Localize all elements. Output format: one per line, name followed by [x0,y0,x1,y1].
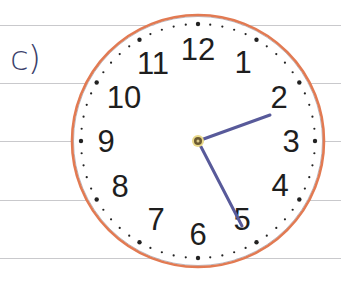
minute-marker-dot [221,254,223,256]
hour-marker-dot [94,197,98,201]
minute-marker-dot [313,152,315,154]
numeral-6: 6 [189,217,206,252]
hour-marker-dot [196,22,200,26]
clock-face: 12 1 2 3 4 5 6 7 8 9 10 11 [0,0,341,284]
minute-marker-dot [128,45,130,47]
minute-marker-dot [233,251,235,253]
numeral-7: 7 [147,202,164,237]
minute-marker-dot [292,209,294,211]
hour-marker-dot [254,37,258,41]
minute-marker-dot [304,187,306,189]
numeral-5: 5 [233,202,250,237]
minute-marker-dot [221,25,223,27]
minute-marker-dot [86,104,88,106]
minute-marker-dot [173,25,175,27]
minute-marker-dot [90,187,92,189]
minute-marker-dot [313,128,315,130]
minute-marker-dot [275,227,277,229]
hour-marker-dot [137,37,141,41]
numeral-3: 3 [282,124,299,159]
minute-marker-dot [308,176,310,178]
numeral-4: 4 [271,168,288,203]
hour-marker-dot [79,139,83,143]
minute-marker-dot [102,71,104,73]
numeral-2: 2 [270,80,287,115]
minute-marker-dot [81,128,83,130]
minute-marker-dot [292,71,294,73]
numeral-10: 10 [107,80,141,115]
minute-marker-dot [102,209,104,211]
minute-marker-dot [308,104,310,106]
minute-marker-dot [110,62,112,64]
hour-marker-dot [313,139,317,143]
numeral-8: 8 [111,169,128,204]
hour-marker-dot [297,80,301,84]
hour-marker-dot [297,197,301,201]
minute-marker-dot [266,45,268,47]
minute-marker-dot [244,247,246,249]
minute-marker-dot [266,235,268,237]
minute-marker-dot [173,254,175,256]
minute-marker-dot [161,29,163,31]
minute-marker-dot [304,92,306,94]
minute-marker-dot [311,116,313,118]
minute-marker-dot [90,92,92,94]
minute-marker-dot [185,24,187,26]
minute-marker-dot [86,176,88,178]
hour-marker-dot [196,256,200,260]
minute-marker-dot [128,235,130,237]
minute-marker-dot [161,251,163,253]
numeral-12: 12 [181,32,215,67]
hour-marker-dot [94,80,98,84]
minute-marker-dot [82,116,84,118]
center-pin-highlight [197,140,200,143]
minute-marker-dot [209,256,211,258]
hour-marker-dot [254,240,258,244]
minute-marker-dot [233,29,235,31]
minute-marker-dot [275,53,277,55]
numeral-1: 1 [234,45,251,80]
minute-marker-dot [311,164,313,166]
minute-marker-dot [284,218,286,220]
numeral-11: 11 [137,46,169,81]
minute-marker-dot [185,256,187,258]
minute-marker-dot [149,247,151,249]
minute-marker-dot [82,164,84,166]
minute-marker-dot [209,24,211,26]
minute-marker-dot [244,33,246,35]
minute-marker-dot [110,218,112,220]
minute-marker-dot [284,62,286,64]
minute-marker-dot [81,152,83,154]
minute-marker-dot [149,33,151,35]
numeral-9: 9 [97,124,114,159]
minute-marker-dot [119,53,121,55]
hour-marker-dot [137,240,141,244]
minute-marker-dot [119,227,121,229]
